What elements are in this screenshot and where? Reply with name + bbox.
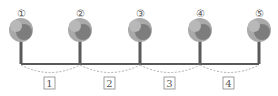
tree-label-5: ⑤ xyxy=(255,8,264,19)
interval-box-2: 2 xyxy=(104,77,115,89)
tree-5 xyxy=(247,18,271,64)
tree-4 xyxy=(188,18,212,64)
interval-label-2: 2 xyxy=(106,78,112,89)
interval-label-4: 4 xyxy=(225,78,231,89)
interval-label-1: 1 xyxy=(46,78,52,89)
tree-label-4: ④ xyxy=(196,8,205,19)
tree-label-1: ① xyxy=(17,8,26,19)
tree-3 xyxy=(128,18,152,64)
tree-1 xyxy=(9,18,33,64)
trees-diagram: ① ② ③ ④ ⑤ 1 2 3 4 xyxy=(0,0,278,96)
tree-2 xyxy=(68,18,92,64)
tree-label-2: ② xyxy=(76,8,85,19)
interval-label-3: 3 xyxy=(166,78,172,89)
tree-label-3: ③ xyxy=(136,8,145,19)
interval-box-1: 1 xyxy=(44,77,55,89)
interval-arcs xyxy=(21,65,259,73)
interval-box-4: 4 xyxy=(223,77,234,89)
interval-box-3: 3 xyxy=(164,77,175,89)
